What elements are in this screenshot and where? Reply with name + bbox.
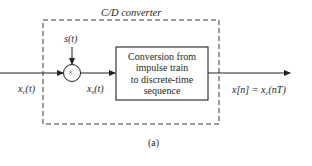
converter-title: C/D converter [101,7,161,18]
input-signal-label: xc(t) [18,83,35,94]
conversion-line-2: impulse train [136,62,189,74]
output-signal-label: x[n] = xc(nT) [232,84,286,95]
output-signal-rhs: (nT) [269,84,286,95]
conversion-line-4: sequence [144,85,181,97]
input-signal-arg: (t) [26,83,35,94]
multiply-symbol: × [68,67,73,77]
sampling-signal-text: s(t) [64,33,77,44]
conversion-line-1: Conversion from [128,51,196,63]
conversion-line-3: to discrete-time [131,74,193,86]
figure-caption-text: (a) [148,137,159,148]
sampling-signal-label: s(t) [64,33,77,44]
converter-title-text: C/D converter [101,7,161,18]
multiply-icon: × [68,67,73,78]
sampled-signal-arg: (t) [94,83,103,94]
output-signal-lhs: x[n] = x [232,84,265,95]
conversion-block-label: Conversion from impulse train to discret… [116,47,208,100]
sampled-signal-label: xs(t) [87,83,104,94]
figure-caption: (a) [148,137,159,148]
